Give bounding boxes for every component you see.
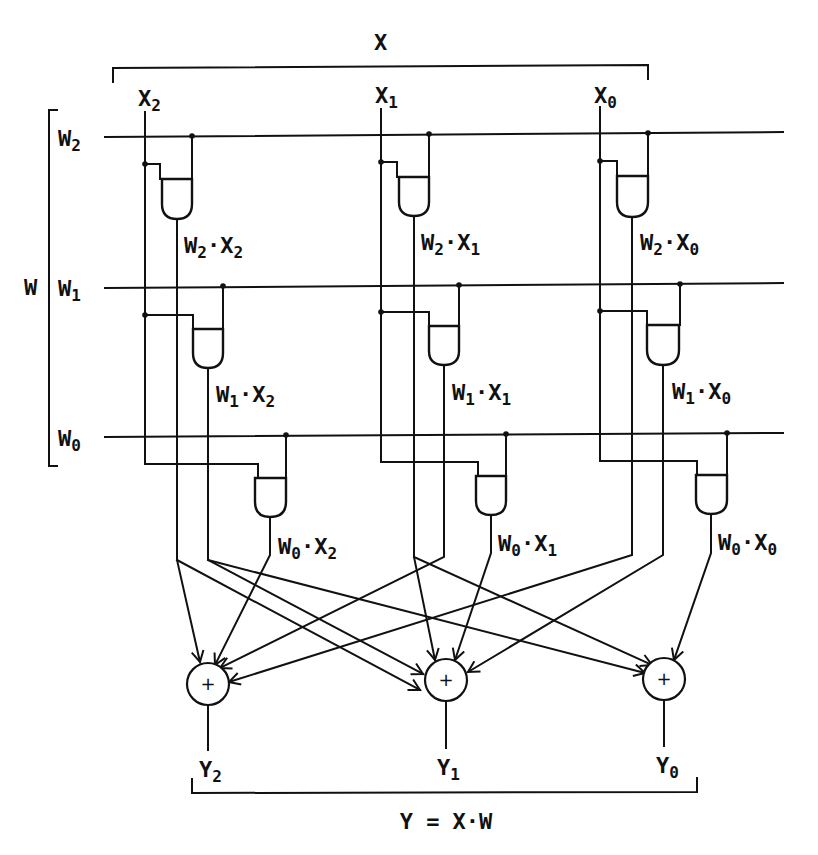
adder-y0: +	[643, 658, 685, 746]
output-labels: Y2 Y1 Y0	[199, 753, 679, 786]
x2-label: X2	[138, 86, 161, 115]
w-bus-bracket: W	[24, 110, 57, 466]
and-gate-w2x2	[162, 179, 192, 219]
y1-label: Y1	[437, 755, 460, 784]
x2-line	[142, 112, 258, 478]
label-w1x0: W1·X0	[672, 379, 731, 408]
adder-y2: +	[187, 663, 229, 750]
label-w1x1: W1·X1	[452, 380, 511, 409]
y-bus-bracket: Y = X·W	[192, 778, 697, 834]
and-gate-w1x2	[193, 329, 223, 368]
x-input-labels: X2 X1 X0	[138, 83, 617, 115]
label-w2x2: W2·X2	[184, 233, 243, 262]
w0-label: W0	[58, 426, 81, 455]
and-gate-w0x2	[255, 478, 286, 517]
w2-line	[105, 132, 783, 137]
circuit-diagram: X X2 X1 X0 W W2 W1 W0	[0, 0, 818, 855]
and-gate-w0x1	[476, 476, 506, 515]
w1-label: W1	[58, 276, 81, 305]
x0-label: X0	[594, 83, 617, 112]
w2-label: W2	[58, 126, 81, 155]
x1-label: X1	[375, 83, 398, 112]
equation: Y = X·W	[400, 809, 493, 834]
label-w0x0: W0·X0	[718, 530, 777, 559]
plus-icon: +	[200, 673, 215, 694]
plus-icon: +	[656, 668, 671, 689]
adder-y1: +	[425, 659, 467, 748]
x-bus-bracket: X	[113, 30, 648, 82]
and-gate-w2x0	[617, 176, 648, 217]
label-w2x0: W2·X0	[640, 230, 699, 259]
w-bus-label: W	[24, 275, 38, 300]
plus-icon: +	[438, 669, 453, 690]
and-gate-w2x1	[399, 177, 429, 216]
label-w0x2: W0·X2	[278, 534, 337, 563]
y2-label: Y2	[199, 757, 222, 786]
label-w0x1: W0·X1	[498, 531, 557, 560]
y0-label: Y0	[656, 753, 679, 782]
and-gate-w1x0	[647, 325, 679, 365]
w-input-labels: W2 W1 W0	[58, 126, 81, 455]
label-w1x2: W1·X2	[216, 382, 275, 411]
and-gate-w1x1	[429, 326, 459, 365]
label-w2x1: W2·X1	[421, 230, 480, 259]
x-bus-label: X	[374, 30, 387, 55]
and-gate-w0x0	[696, 475, 727, 514]
